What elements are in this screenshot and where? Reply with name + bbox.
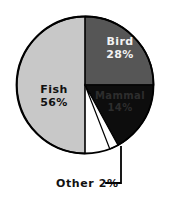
pie-label-other: Other 2% <box>56 177 119 190</box>
pie-chart-graphic <box>0 0 169 203</box>
pie-slice-bird <box>85 17 154 86</box>
pie-slice-mammal <box>85 85 154 145</box>
pie-chart: Fish 56% Bird 28% Mammal 14% Other 2% <box>0 0 169 203</box>
